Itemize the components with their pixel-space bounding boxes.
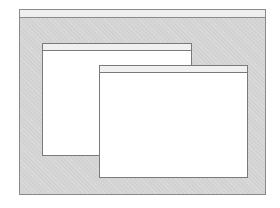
desktop-top-bar — [20, 10, 265, 18]
front-window[interactable] — [99, 65, 248, 178]
back-window-title-bar[interactable] — [43, 44, 191, 51]
front-window-title-bar[interactable] — [100, 66, 247, 73]
desktop-screen — [19, 9, 266, 195]
